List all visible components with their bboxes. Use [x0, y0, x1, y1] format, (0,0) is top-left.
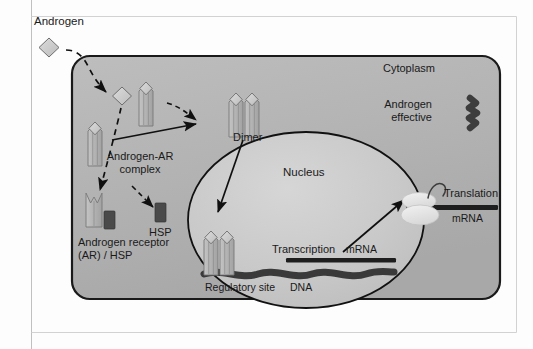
label-androgen-ar-complex-line1: Androgen-AR [107, 150, 174, 162]
label-dna: DNA [290, 281, 312, 293]
hsp-bound-block [104, 211, 115, 229]
androgen-receptor-unliganded [86, 193, 102, 227]
bound-dimer-subunit-left [204, 231, 218, 275]
mrna-transcript-nucleus [286, 258, 396, 263]
bound-dimer-subunit-right [220, 231, 234, 275]
label-androgen-effective-line2: effective [391, 111, 432, 123]
androgen-ar-complex-upper [139, 82, 153, 126]
ribosome-small-subunit [401, 205, 439, 225]
label-translation: Translation [444, 187, 498, 199]
androgen-ar-complex-lower [88, 122, 102, 166]
label-transcription: Transcription [272, 243, 335, 255]
label-mrna-nucleus: mRNA [346, 243, 377, 255]
label-cytoplasm: Cytoplasm [383, 62, 435, 74]
label-regulatory-site: Regulatory site [205, 281, 275, 293]
label-androgen-ar-complex-line2: complex [120, 163, 161, 175]
label-androgen-receptor-line1: Androgen receptor [78, 236, 169, 248]
label-androgen-effective-line1: Androgen [384, 98, 432, 110]
label-dimer: Dimer [233, 131, 263, 143]
diagram-canvas: Androgen Cytoplasm Dimer Androgen-AR com… [0, 0, 533, 349]
label-mrna-cytoplasm: mRNA [452, 212, 483, 224]
label-nucleus: Nucleus [283, 166, 325, 178]
figure-root: Androgen Cytoplasm Dimer Androgen-AR com… [0, 0, 533, 349]
label-androgen-receptor-line2: (AR) / HSP [78, 249, 132, 261]
hsp-released-block [155, 203, 166, 222]
label-androgen: Androgen [34, 15, 84, 27]
